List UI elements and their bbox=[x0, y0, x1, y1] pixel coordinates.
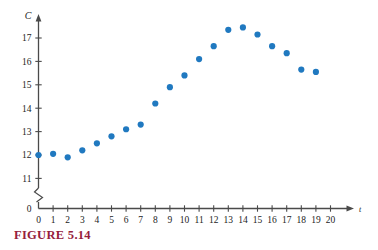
y-tick-label: 0 bbox=[27, 204, 32, 214]
x-tick-label: 8 bbox=[153, 215, 158, 225]
x-tick-label: 13 bbox=[224, 215, 234, 225]
x-tick-label: 5 bbox=[109, 215, 114, 225]
data-point bbox=[211, 43, 217, 49]
data-point bbox=[284, 50, 290, 56]
data-point bbox=[225, 27, 231, 33]
data-point bbox=[123, 126, 129, 132]
figure-container: 011121314151617 012345678910111213141516… bbox=[0, 0, 378, 250]
y-tick-label: 16 bbox=[22, 57, 32, 67]
data-point bbox=[240, 24, 246, 30]
data-point bbox=[138, 121, 144, 127]
x-tick-label: 11 bbox=[195, 215, 204, 225]
data-point bbox=[167, 84, 173, 90]
x-tick-label: 6 bbox=[124, 215, 129, 225]
data-point bbox=[94, 140, 100, 146]
data-point bbox=[35, 152, 41, 158]
x-axis-arrowhead bbox=[347, 206, 355, 212]
data-point bbox=[108, 133, 114, 139]
x-tick-label: 16 bbox=[267, 215, 277, 225]
y-axis-break-symbol bbox=[35, 188, 43, 202]
data-point bbox=[152, 100, 158, 106]
x-tick-label: 15 bbox=[253, 215, 263, 225]
y-axis bbox=[35, 14, 43, 209]
x-tick-label: 4 bbox=[95, 215, 100, 225]
data-point bbox=[313, 69, 319, 75]
data-point bbox=[79, 147, 85, 153]
data-point bbox=[298, 66, 304, 72]
data-point bbox=[181, 72, 187, 78]
y-tick-label: 11 bbox=[22, 174, 31, 184]
x-tick-label: 2 bbox=[65, 215, 70, 225]
x-tick-label: 18 bbox=[297, 215, 307, 225]
data-point bbox=[254, 31, 260, 37]
x-tick-label: 7 bbox=[138, 215, 143, 225]
x-tick-label: 0 bbox=[36, 215, 41, 225]
y-tick-label: 14 bbox=[22, 104, 32, 114]
data-point bbox=[50, 151, 56, 157]
x-tick-label: 3 bbox=[80, 215, 85, 225]
data-point bbox=[269, 43, 275, 49]
figure-caption: FIGURE 5.14 bbox=[14, 228, 91, 243]
x-tick-label: 19 bbox=[311, 215, 321, 225]
y-tick-label: 17 bbox=[22, 33, 32, 43]
data-point bbox=[65, 154, 71, 160]
x-axis-label: t bbox=[359, 205, 362, 214]
data-point-group bbox=[35, 24, 319, 160]
y-axis-arrowhead bbox=[36, 14, 42, 22]
y-tick-label: 12 bbox=[22, 150, 32, 160]
data-point bbox=[196, 56, 202, 62]
x-tick-label: 10 bbox=[180, 215, 190, 225]
scatter-plot: 011121314151617 012345678910111213141516… bbox=[0, 0, 378, 250]
x-tick-label: 9 bbox=[168, 215, 173, 225]
x-tick-label: 12 bbox=[209, 215, 219, 225]
y-axis-label: C bbox=[25, 10, 32, 21]
x-tick-label: 1 bbox=[51, 215, 56, 225]
x-tick-label: 17 bbox=[282, 215, 292, 225]
y-tick-label: 15 bbox=[22, 80, 32, 90]
x-tick-label: 20 bbox=[326, 215, 336, 225]
x-tick-label: 14 bbox=[238, 215, 248, 225]
y-tick-label: 13 bbox=[22, 127, 32, 137]
x-axis bbox=[39, 206, 355, 212]
